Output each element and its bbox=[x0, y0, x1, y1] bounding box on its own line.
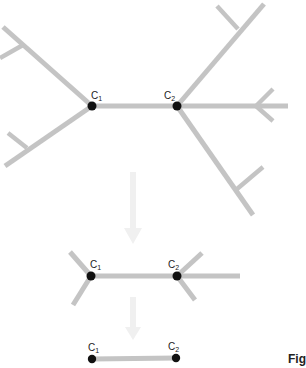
lower-right-stub bbox=[177, 276, 195, 300]
down-arrow-2 bbox=[125, 297, 141, 340]
full-tree-stage: C1 C2 bbox=[0, 4, 288, 215]
node-c2-label: C2 bbox=[164, 90, 175, 102]
core-edge-stage: C1 C2 bbox=[88, 341, 180, 363]
upper-right-branch bbox=[177, 4, 264, 106]
upper-left-branch bbox=[3, 27, 92, 106]
upper-right-stub bbox=[177, 253, 202, 276]
node-c1-label: C1 bbox=[88, 342, 99, 354]
upper-left-twig bbox=[0, 45, 23, 58]
core-edge bbox=[92, 358, 176, 359]
pruned-tree-stage: C1 C2 bbox=[70, 252, 240, 305]
node-c2 bbox=[172, 354, 180, 362]
figure-caption: Figu bbox=[288, 352, 306, 366]
lower-left-twig bbox=[8, 133, 27, 148]
upper-left-stub bbox=[70, 252, 91, 276]
node-c1-label: C1 bbox=[90, 259, 101, 271]
down-arrow-1 bbox=[124, 172, 142, 244]
lower-left-branch bbox=[5, 106, 92, 166]
node-c2 bbox=[173, 102, 182, 111]
node-c2 bbox=[173, 272, 182, 281]
lower-left-stub bbox=[73, 276, 91, 305]
upper-right-twig bbox=[217, 6, 238, 29]
node-c1 bbox=[88, 102, 97, 111]
right-fork-upper bbox=[256, 89, 273, 106]
lower-right-branch bbox=[177, 106, 253, 215]
node-c2-label: C2 bbox=[168, 341, 179, 353]
node-c1 bbox=[88, 355, 96, 363]
lower-right-twig bbox=[237, 167, 263, 189]
node-c1-label: C1 bbox=[91, 90, 102, 102]
node-c2-label: C2 bbox=[168, 259, 179, 271]
node-c1 bbox=[87, 272, 96, 281]
tree-pruning-diagram: C1 C2 C1 C2 C1 C2 bbox=[0, 0, 306, 368]
